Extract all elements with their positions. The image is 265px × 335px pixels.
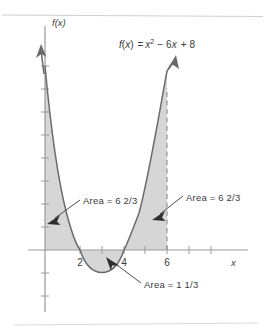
x-tick-label-2: 2: [77, 257, 83, 268]
equation-exponent: 2: [150, 38, 154, 45]
equation-plus: +: [181, 39, 187, 50]
equation-var-x2: x: [171, 39, 178, 50]
x-axis-label: x: [230, 257, 237, 268]
x-tick-label-6: 6: [164, 257, 170, 268]
equation-constant: 8: [189, 39, 195, 50]
equation-paren-close: ): [130, 39, 133, 50]
equation-equals: =: [137, 39, 143, 50]
equation-label: f(x)=x2−6x+8: [119, 38, 195, 50]
svg-text:f(x)=x2−6x+8: f(x)=x2−6x+8: [119, 38, 195, 50]
annotation-left-area-text: Area = 6 2/3: [83, 195, 137, 206]
annotation-middle-area-text: Area = 1 1/3: [144, 279, 198, 290]
x-tick-label-4: 4: [121, 257, 127, 268]
parabola-area-figure: 2 4 6 f(x) x f(x)=x2−6x+8 Area = 6 2/3 A…: [0, 0, 265, 335]
top-rule: [2, 15, 263, 17]
bottom-rule: [14, 323, 258, 325]
shaded-area-right: [124, 71, 167, 250]
figure-container: 2 4 6 f(x) x f(x)=x2−6x+8 Area = 6 2/3 A…: [0, 0, 265, 335]
annotation-middle-area: Area = 1 1/3: [106, 257, 198, 290]
annotation-right-area-text: Area = 6 2/3: [186, 192, 240, 203]
curve-arrowhead-right: [167, 55, 179, 70]
y-axis-label: f(x): [52, 17, 66, 28]
equation-minus: −: [157, 39, 163, 50]
